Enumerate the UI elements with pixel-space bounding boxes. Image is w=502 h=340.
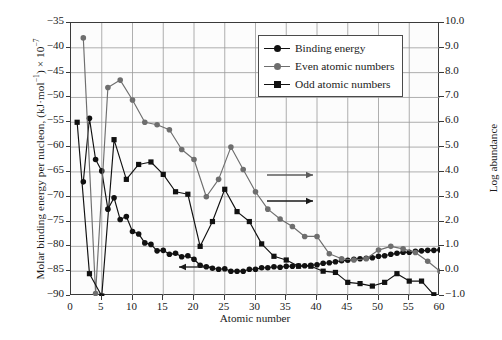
y-tick-right-4: 4.0 [445, 163, 485, 175]
y-tick-right-5: 5.0 [445, 138, 485, 150]
y-tick-right-2: 2.0 [445, 213, 485, 225]
tick-mark [439, 121, 444, 122]
tick-mark [66, 22, 71, 23]
y-tick-right-3: 3.0 [445, 188, 485, 200]
figure-binding-energy-abundance: Molar binding energy per nucleon, (kJ·mo… [0, 0, 502, 340]
legend-label: Even atomic numbers [295, 60, 394, 72]
y-tick-right--1: −1.0 [445, 287, 485, 299]
x-tick-35: 35 [270, 300, 300, 312]
tick-mark [162, 295, 163, 300]
y-tick-left--45: −45 [28, 64, 64, 76]
y-tick-right-0: 0.0 [445, 262, 485, 274]
y-tick-left--65: −65 [28, 163, 64, 175]
x-tick-20: 20 [178, 300, 208, 312]
tick-mark [439, 221, 444, 222]
tick-mark [66, 96, 71, 97]
x-tick-10: 10 [117, 300, 147, 312]
tick-mark [66, 121, 71, 122]
x-tick-40: 40 [301, 300, 331, 312]
tick-mark [408, 295, 409, 300]
tick-mark [224, 295, 225, 300]
tick-mark [66, 245, 71, 246]
y-tick-right-8: 8.0 [445, 64, 485, 76]
tick-mark [439, 196, 444, 197]
tick-mark [378, 295, 379, 300]
legend-marker-circle-icon [264, 60, 290, 72]
tick-mark [255, 295, 256, 300]
legend-marker-circle-icon [264, 42, 290, 54]
tick-mark [439, 171, 444, 172]
tick-mark [66, 72, 71, 73]
x-tick-30: 30 [240, 300, 270, 312]
x-tick-5: 5 [86, 300, 116, 312]
y-tick-left--85: −85 [28, 262, 64, 274]
legend-item-1[interactable]: Even atomic numbers [264, 57, 394, 75]
y-tick-left--50: −50 [28, 88, 64, 100]
x-tick-0: 0 [55, 300, 85, 312]
y-tick-left--60: −60 [28, 138, 64, 150]
tick-mark [439, 22, 444, 23]
legend-marker-square-icon [264, 78, 290, 90]
tick-mark [66, 295, 71, 296]
tick-mark [347, 295, 348, 300]
y-tick-left--55: −55 [28, 113, 64, 125]
x-axis-title: Atomic number [70, 312, 440, 324]
x-tick-50: 50 [363, 300, 393, 312]
y-tick-left--90: −90 [28, 287, 64, 299]
y-tick-right-9: 9.0 [445, 39, 485, 51]
legend-marker [274, 63, 281, 70]
y-tick-left--75: −75 [28, 213, 64, 225]
tick-mark [439, 270, 444, 271]
y-tick-right-1: 1.0 [445, 237, 485, 249]
x-tick-60: 60 [424, 300, 454, 312]
tick-mark [439, 245, 444, 246]
tick-mark [285, 295, 286, 300]
tick-mark [316, 295, 317, 300]
y-tick-left--40: −40 [28, 39, 64, 51]
y-tick-right-7: 7.0 [445, 88, 485, 100]
tick-mark [101, 295, 102, 300]
tick-mark [66, 270, 71, 271]
legend-item-0[interactable]: Binding energy [264, 39, 394, 57]
tick-mark [132, 295, 133, 300]
legend-item-2[interactable]: Odd atomic numbers [264, 75, 394, 93]
tick-mark [66, 221, 71, 222]
legend-label: Odd atomic numbers [295, 78, 391, 90]
y-axis-right-title: Log abundance [487, 63, 499, 253]
legend-label: Binding energy [295, 42, 365, 54]
tick-mark [439, 295, 444, 296]
x-tick-55: 55 [393, 300, 423, 312]
y-tick-left--70: −70 [28, 188, 64, 200]
x-tick-15: 15 [147, 300, 177, 312]
tick-mark [439, 47, 444, 48]
legend-marker [274, 81, 281, 88]
tick-mark [439, 72, 444, 73]
x-tick-45: 45 [332, 300, 362, 312]
tick-mark [66, 171, 71, 172]
tick-mark [439, 146, 444, 147]
y-tick-left--80: −80 [28, 237, 64, 249]
y-tick-right-10: 10.0 [445, 14, 485, 26]
legend: Binding energyEven atomic numbersOdd ato… [258, 35, 403, 97]
middot: · [34, 100, 46, 104]
tick-mark [66, 146, 71, 147]
legend-marker [274, 45, 281, 52]
tick-mark [439, 96, 444, 97]
tick-mark [193, 295, 194, 300]
y-tick-right-6: 6.0 [445, 113, 485, 125]
tick-mark [66, 47, 71, 48]
y-tick-left--35: −35 [28, 14, 64, 26]
x-tick-25: 25 [209, 300, 239, 312]
tick-mark [66, 196, 71, 197]
